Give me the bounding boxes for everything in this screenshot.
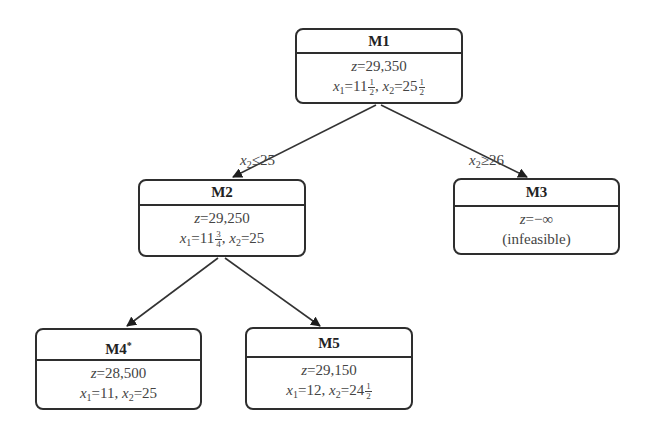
node-title: M2: [140, 181, 304, 206]
node-title: M1: [297, 30, 461, 54]
solution-values: x1=11, x2=25: [37, 383, 200, 408]
node-body: z=29,350 x1=1112, x2=2512: [297, 54, 461, 101]
objective-value: z=28,500: [37, 363, 200, 383]
node-m3: M3 z=−∞ (infeasible): [453, 178, 620, 255]
node-title: M4*: [37, 330, 200, 361]
solution-values: x1=1112, x2=2512: [297, 76, 461, 101]
node-body: z=29,150 x1=12, x2=2412: [247, 358, 411, 405]
node-body: z=29,250 x1=1134, x2=25: [140, 206, 304, 253]
node-m2: M2 z=29,250 x1=1134, x2=25: [138, 179, 306, 257]
edge-label-m1-m2: x2≤25: [240, 152, 275, 170]
node-m4-optimal: M4* z=28,500 x1=11, x2=25: [35, 328, 202, 410]
node-body: z=28,500 x1=11, x2=25: [37, 361, 200, 408]
objective-value: z=29,350: [297, 56, 461, 76]
infeasible-note: (infeasible): [455, 229, 618, 249]
objective-value: z=29,250: [140, 208, 304, 228]
edge-m1-m3-arrow: [381, 105, 527, 177]
optimal-marker: *: [127, 340, 132, 351]
edge-m2-m4-arrow: [127, 258, 218, 326]
solution-values: x1=12, x2=2412: [247, 380, 411, 405]
objective-value: z=−∞: [455, 209, 618, 229]
node-title: M3: [455, 180, 618, 207]
node-m5: M5 z=29,150 x1=12, x2=2412: [245, 327, 413, 410]
node-title: M5: [247, 329, 411, 358]
edge-label-m1-m3: x2≥26: [469, 152, 504, 170]
objective-value: z=29,150: [247, 360, 411, 380]
edge-m2-m5-arrow: [225, 258, 320, 326]
solution-values: x1=1134, x2=25: [140, 228, 304, 253]
node-m1: M1 z=29,350 x1=1112, x2=2512: [295, 28, 463, 104]
node-body: z=−∞ (infeasible): [455, 207, 618, 249]
